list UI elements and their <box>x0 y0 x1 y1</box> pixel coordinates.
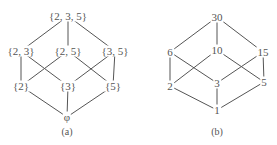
node-d1: 1 <box>213 105 221 116</box>
node-d6: 6 <box>166 47 174 58</box>
node-d2: 2 <box>166 81 174 92</box>
node-d5: 5 <box>260 77 268 88</box>
edge-d2-d1 <box>170 86 217 110</box>
node-d15: 15 <box>257 47 270 58</box>
node-d30: 30 <box>211 12 224 23</box>
node-n35: {3, 5} <box>100 46 129 57</box>
node-empty: φ <box>63 112 71 123</box>
node-d10: 10 <box>211 45 224 56</box>
node-n3: {3} <box>59 81 77 92</box>
edge-d5-d1 <box>217 82 264 110</box>
node-n25: {2, 5} <box>53 46 82 57</box>
node-n235: {2, 3, 5} <box>48 11 88 22</box>
node-d3: 3 <box>213 78 221 89</box>
caption-a: (a) <box>61 126 72 137</box>
node-n23: {2, 3} <box>6 46 35 57</box>
node-n5: {5} <box>104 81 122 92</box>
caption-b: (b) <box>211 126 223 137</box>
edge-layer <box>0 0 277 145</box>
node-n2: {2} <box>12 81 30 92</box>
